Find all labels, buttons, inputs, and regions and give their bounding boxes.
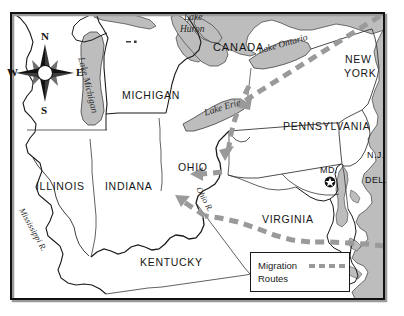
map-legend: Migration Routes bbox=[250, 252, 350, 292]
legend-dashed-line-swatch bbox=[309, 264, 345, 268]
legend-line-2: Routes bbox=[258, 273, 297, 286]
legend-label-text: Migration Routes bbox=[258, 260, 297, 285]
legend-line-1: Migration bbox=[258, 260, 297, 273]
washington-dc-star-marker bbox=[325, 177, 336, 188]
migration-routes-map: CANADA MICHIGAN NEW YORK PENNSYLVANIA N.… bbox=[0, 0, 404, 316]
